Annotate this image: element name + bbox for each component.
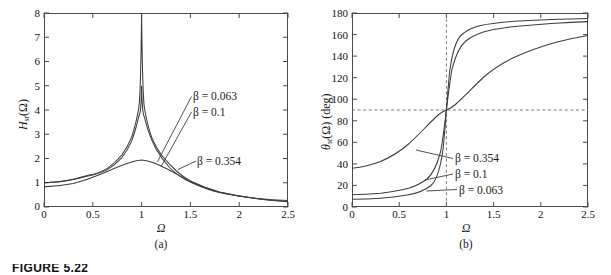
panel-b-ytick-160: 160 [317,30,348,41]
panel-a-xtick-2: 1 [130,209,154,220]
panel-a-ytick-8: 8 [14,8,40,19]
panel-b: 180 160 140 120 100 80 60 40 20 0 0 0.5 … [305,0,611,255]
panel-b-ytick-140: 140 [317,51,348,62]
curve-beta-01 [44,86,288,202]
panel-b-leader-lines [416,150,457,191]
panel-a-ytick-5: 5 [14,81,40,92]
panel-b-xtick-1: 0.5 [387,209,411,220]
panel-a-xlabel: Ω [146,221,176,236]
panel-a-subcaption: (a) [146,238,176,250]
panel-b-xtick-4: 2 [529,209,553,220]
panel-a-ytick-6: 6 [14,56,40,67]
panel-a-ylabel-arg: (Ω) [16,99,30,116]
panel-b-xlabel: Ω [451,221,481,236]
panel-b-ylabel: θst(Ω) (deg) [319,94,334,150]
panel-a-ytick-1: 1 [14,177,40,188]
panel-a-xtick-5: 2.5 [276,209,300,220]
figure-root: 8 7 6 5 4 3 2 1 0 0 0.5 1 1.5 2 2.5 Ω Hs… [0,0,611,275]
panel-b-ytick-40: 40 [317,159,348,170]
panel-b-annotation-beta-01: β = 0.1 [455,168,487,180]
panel-a-annotation-beta-0063: β = 0.063 [193,90,237,102]
panel-b-ylabel-sub: st [325,139,334,144]
panel-a-xtick-1: 0.5 [81,209,105,220]
panel-a-ytick-3: 3 [14,129,40,140]
panel-a-ylabel-sub: st [22,116,31,121]
figure-caption: FIGURE 5.22 [12,264,88,275]
panel-b-subcaption: (b) [451,238,481,250]
figure-caption-text: FIGURE 5.22 [12,264,88,275]
panel-b-ytick-120: 120 [317,73,348,84]
curve-beta-0063 [44,13,288,201]
panel-b-xtick-2: 1 [434,209,458,220]
panel-a-annotation-beta-0354: β = 0.354 [197,155,241,167]
panel-a-ytick-2: 2 [14,153,40,164]
panel-b-annotation-beta-0354: β = 0.354 [455,152,499,164]
panel-b-annotation-beta-0063: β = 0.063 [459,184,503,196]
panel-a-ytick-7: 7 [14,32,40,43]
panel-a-leader-lines [158,97,197,170]
panel-b-ytick-20: 20 [317,180,348,191]
panel-a-xtick-4: 2 [227,209,251,220]
panel-a-xtick-0: 0 [32,209,56,220]
panel-b-xtick-3: 1.5 [482,209,506,220]
panel-b-xtick-5: 2.5 [576,209,600,220]
panel-a-xtick-3: 1.5 [178,209,202,220]
panel-b-ylabel-arg: (Ω) (deg) [319,94,333,139]
panel-b-ytick-180: 180 [317,8,348,19]
panel-b-xtick-0: 0 [340,209,364,220]
panel-a-ylabel: Hst(Ω) [16,99,31,130]
panel-a: 8 7 6 5 4 3 2 1 0 0 0.5 1 1.5 2 2.5 Ω Hs… [0,0,305,255]
curve-beta-0354 [44,160,288,201]
curve-b-beta-0354 [352,36,588,169]
panel-a-annotation-beta-01: β = 0.1 [193,106,225,118]
